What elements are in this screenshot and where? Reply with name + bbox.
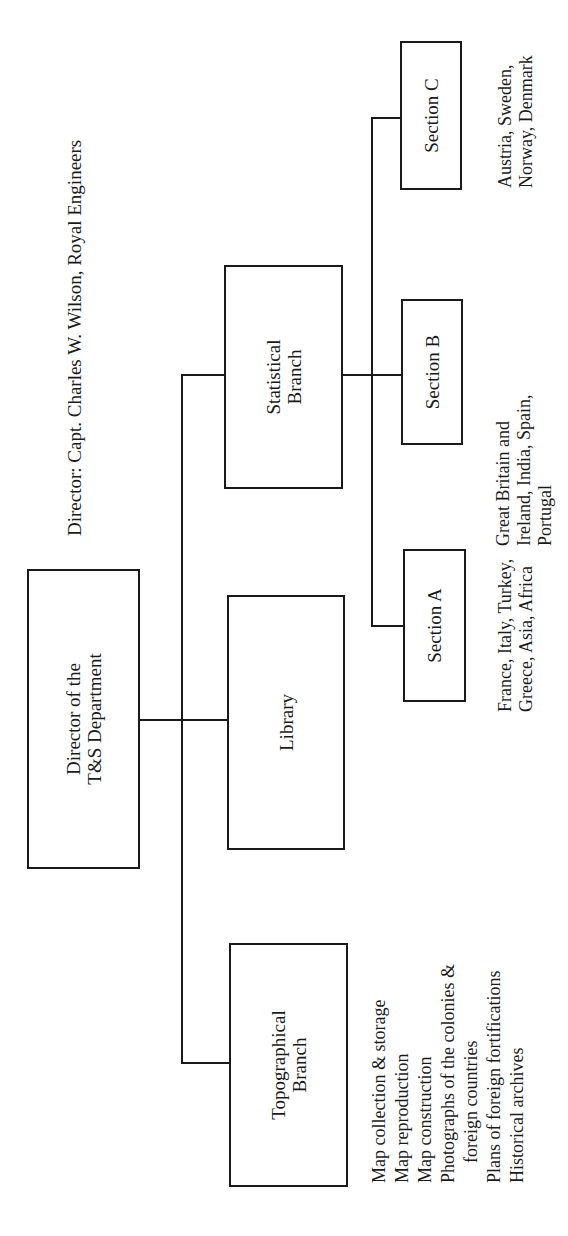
connector-sections-trunk	[371, 117, 373, 627]
connector-section-c	[371, 117, 400, 119]
section-c-countries: Austria, Sweden, Norway, Denmark	[495, 55, 537, 188]
list-item: Photographs of the colonies &	[437, 964, 460, 1183]
connector-topographical	[181, 1062, 229, 1064]
list-item: foreign countries	[460, 964, 483, 1183]
node-library: Library	[227, 595, 345, 850]
connector-section-a	[371, 625, 403, 627]
list-item: Map construction	[414, 964, 437, 1183]
node-topographical: Topographical Branch	[229, 943, 348, 1187]
node-director-label: Director of the T&S Department	[63, 653, 105, 784]
node-statistical-label: Statistical Branch	[263, 340, 305, 415]
connector-statistical	[181, 374, 224, 376]
node-section-b-label: Section B	[422, 335, 443, 409]
node-library-label: Library	[276, 694, 297, 751]
list-item: Plans of foreign fortifications	[483, 964, 506, 1183]
node-director: Director of the T&S Department	[27, 569, 140, 869]
node-statistical: Statistical Branch	[224, 265, 343, 489]
connector-main-trunk	[181, 374, 183, 1064]
list-item: Map reproduction	[391, 964, 414, 1183]
node-section-a-label: Section A	[424, 588, 445, 662]
section-a-countries: France, Italy, Turkey, Greece, Asia, Afr…	[495, 559, 537, 712]
node-section-a: Section A	[403, 549, 466, 702]
list-item: Map collection & storage	[368, 964, 391, 1183]
org-chart: Director: Capt. Charles W. Wilson, Royal…	[0, 0, 568, 1236]
node-section-c-label: Section C	[421, 78, 442, 152]
node-section-b: Section B	[401, 299, 463, 445]
node-section-c: Section C	[400, 41, 462, 190]
list-item: Historical archives	[506, 964, 529, 1183]
node-topographical-label: Topographical Branch	[268, 1010, 310, 1119]
director-caption: Director: Capt. Charles W. Wilson, Royal…	[64, 140, 86, 536]
section-b-countries: Great Britain and Ireland, India, Spain,…	[493, 395, 556, 546]
topographical-duties-list: Map collection & storage Map reproductio…	[368, 964, 529, 1183]
connector-director	[140, 719, 227, 721]
